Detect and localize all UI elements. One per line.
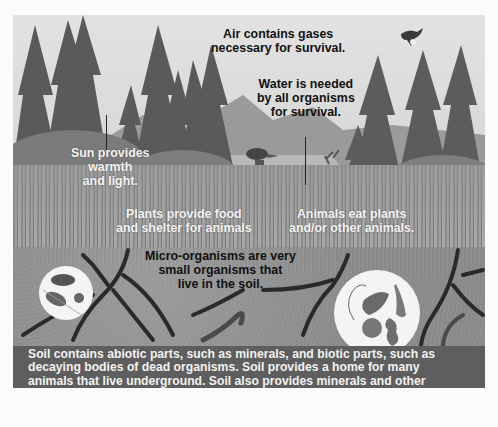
flying-eagle (399, 28, 425, 50)
label-air: Air contains gases necessary for surviva… (211, 27, 345, 55)
label-water: Water is needed by all organisms for sur… (257, 77, 355, 119)
ecosystem-illustration: Air contains gases necessary for surviva… (13, 15, 485, 388)
label-plants: Plants provide food and shelter for anim… (116, 207, 252, 235)
worm (203, 314, 242, 340)
pointer-water (305, 137, 306, 185)
microorganisms-inset (334, 270, 420, 356)
soil-insects-inset (39, 266, 93, 320)
label-micro-organisms: Micro-organisms are very small organisms… (145, 249, 296, 291)
label-animals: Animals eat plants and/or other animals. (289, 207, 414, 235)
pointer-sun (106, 115, 107, 150)
caption-box: Soil contains abiotic parts, such as min… (13, 346, 485, 388)
label-sun: Sun provides warmth and light. (71, 146, 150, 188)
worm (443, 315, 463, 345)
